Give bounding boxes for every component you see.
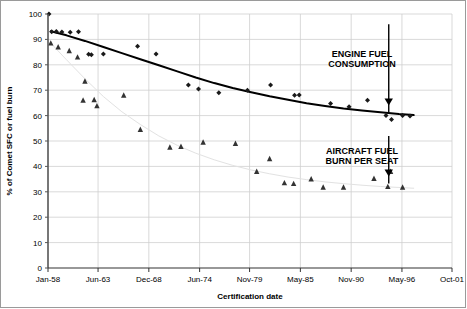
marker-diamond [297, 93, 302, 98]
chart-root: 0102030405060708090100Jan-58Jun-63Dec-68… [0, 0, 467, 309]
x-tick-label: Dec-68 [136, 275, 162, 284]
y-axis-title: % of Comet SFC or fuel burn [5, 86, 14, 195]
marker-diamond [268, 83, 273, 88]
marker-diamond [186, 83, 191, 88]
y-tick-label: 30 [33, 188, 42, 197]
y-tick-label: 60 [33, 112, 42, 121]
marker-diamond [328, 101, 333, 106]
marker-diamond [216, 90, 221, 95]
y-tick-label: 20 [33, 213, 42, 222]
marker-diamond [101, 51, 106, 56]
y-tick-label: 40 [33, 162, 42, 171]
marker-triangle [67, 48, 72, 53]
marker-triangle [291, 181, 296, 186]
marker-triangle [94, 103, 99, 108]
y-tick-label: 80 [33, 61, 42, 70]
marker-triangle [267, 156, 272, 161]
marker-diamond [68, 30, 73, 35]
annotation-label-engine-fuel-consumption-line2: CONSUMPTION [328, 59, 396, 69]
marker-diamond [196, 86, 201, 91]
annotation-label-aircraft-fuel-burn-per-seat: AIRCRAFT FUEL [326, 146, 398, 156]
y-tick-label: 90 [33, 35, 42, 44]
annotation-label-aircraft-fuel-burn-per-seat-line2: BURN PER SEAT [326, 156, 399, 166]
y-tick-label: 10 [33, 239, 42, 248]
marker-triangle [167, 144, 172, 149]
marker-diamond [154, 51, 159, 56]
marker-triangle [138, 127, 143, 132]
trendline-engine-sfc-trend [51, 31, 414, 115]
marker-triangle [308, 176, 313, 181]
x-tick-label: Nov-90 [338, 275, 364, 284]
marker-triangle [80, 97, 85, 102]
x-tick-label: Jan-58 [36, 275, 61, 284]
marker-triangle [48, 40, 53, 45]
chart-canvas: 0102030405060708090100Jan-58Jun-63Dec-68… [0, 0, 467, 309]
marker-triangle [121, 92, 126, 97]
annotation-arrow-head-engine-fuel-consumption [385, 98, 393, 105]
x-tick-label: May-96 [389, 275, 416, 284]
marker-triangle [400, 184, 405, 189]
marker-diamond [135, 44, 140, 49]
x-tick-label: Oct-01 [440, 275, 465, 284]
y-tick-label: 100 [29, 10, 43, 19]
y-tick-label: 0 [38, 264, 43, 273]
x-tick-label: Jun-63 [86, 275, 111, 284]
x-tick-label: Nov-79 [237, 275, 263, 284]
marker-triangle [341, 184, 346, 189]
marker-diamond [365, 98, 370, 103]
marker-diamond [76, 29, 81, 34]
x-tick-label: May-85 [287, 275, 314, 284]
x-axis-title: Certification date [217, 292, 283, 301]
marker-triangle [55, 44, 60, 49]
marker-diamond [49, 29, 54, 34]
marker-triangle [91, 97, 96, 102]
y-tick-label: 70 [33, 86, 42, 95]
y-tick-label: 50 [33, 137, 42, 146]
marker-diamond [389, 117, 394, 122]
marker-triangle [371, 176, 376, 181]
marker-diamond [292, 93, 297, 98]
marker-triangle [320, 184, 325, 189]
x-tick-label: Jun-74 [187, 275, 212, 284]
annotation-label-engine-fuel-consumption: ENGINE FUEL [332, 49, 393, 59]
marker-triangle [282, 180, 287, 185]
marker-triangle [200, 139, 205, 144]
marker-triangle [75, 54, 80, 59]
